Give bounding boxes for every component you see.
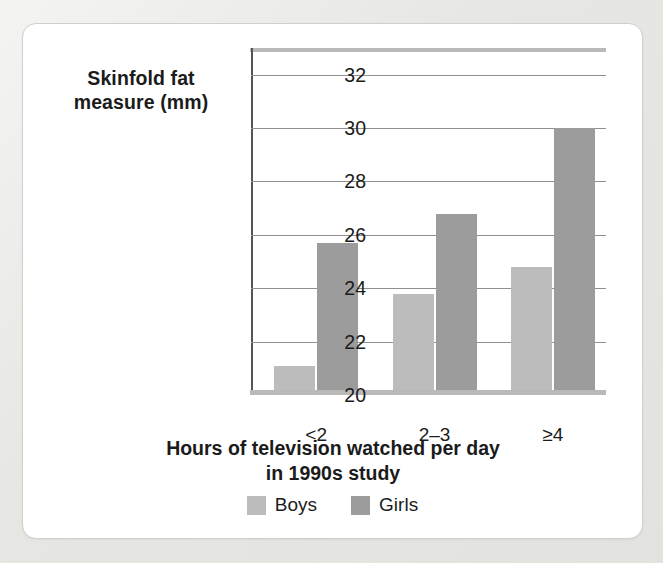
- legend-swatch-icon: [351, 496, 370, 515]
- bar-girls-0: [317, 243, 358, 395]
- chart-card: Skinfold fat measure (mm) 20222426283032…: [22, 23, 643, 539]
- y-axis-title-line-1: Skinfold fat: [51, 66, 231, 90]
- legend-item-boys[interactable]: Boys: [247, 494, 317, 516]
- y-axis-line: [251, 48, 253, 395]
- plot-frame: [251, 48, 606, 395]
- x-axis-title-line-2: in 1990s study: [83, 461, 583, 486]
- y-axis-title-line-2: measure (mm): [51, 90, 231, 114]
- x-axis-title-line-1: Hours of television watched per day: [83, 436, 583, 461]
- x-axis-line: [250, 390, 606, 395]
- bar-girls-2: [554, 128, 595, 395]
- bar-boys-1: [393, 294, 434, 395]
- plot-top-rule: [250, 48, 606, 52]
- x-axis-title: Hours of television watched per day in 1…: [83, 436, 583, 487]
- y-axis-tick-label: 30: [312, 117, 366, 140]
- chart-legend: BoysGirls: [23, 494, 642, 516]
- plot-area: 20222426283032 <22–3≥4: [251, 48, 606, 395]
- gridline: [251, 235, 606, 236]
- y-axis-tick-label: 24: [312, 277, 366, 300]
- y-axis-tick-label: 26: [312, 223, 366, 246]
- bar-boys-2: [511, 267, 552, 395]
- legend-item-girls[interactable]: Girls: [351, 494, 418, 516]
- y-axis-tick-label: 20: [312, 384, 366, 407]
- y-axis-tick-label: 22: [312, 330, 366, 353]
- bar-girls-1: [436, 214, 477, 396]
- legend-label: Girls: [379, 494, 418, 516]
- gridline: [251, 288, 606, 289]
- gridline: [251, 128, 606, 129]
- gridline: [251, 75, 606, 76]
- y-axis-tick-label: 32: [312, 63, 366, 86]
- y-axis-title: Skinfold fat measure (mm): [51, 66, 231, 114]
- y-axis-tick-label: 28: [312, 170, 366, 193]
- legend-swatch-icon: [247, 496, 266, 515]
- legend-label: Boys: [275, 494, 317, 516]
- gridline: [251, 181, 606, 182]
